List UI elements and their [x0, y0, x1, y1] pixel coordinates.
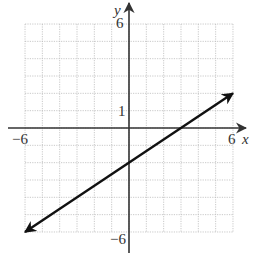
x-tick-label-6: 6	[228, 131, 236, 147]
x-tick-label-neg6: −6	[12, 131, 28, 147]
coordinate-plane: y 6 1 −6 6 x −6	[0, 0, 254, 276]
y-tick-label-neg6: −6	[110, 231, 126, 247]
y-tick-label-1: 1	[118, 103, 126, 119]
y-tick-label-6: 6	[116, 15, 124, 31]
x-axis-label: x	[241, 131, 249, 147]
